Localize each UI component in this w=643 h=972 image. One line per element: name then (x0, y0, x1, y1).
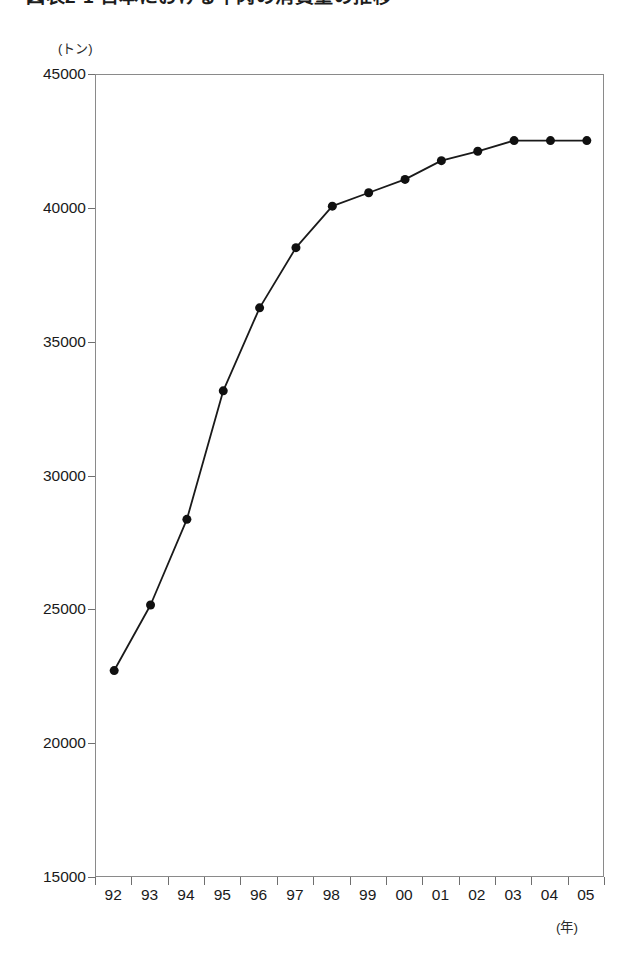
data-point-marker: 94: 28400 (182, 515, 191, 524)
series-plot: 92: 2275093: 2520094: 2840095: 3320096: … (96, 75, 605, 878)
x-axis-tick (568, 877, 569, 885)
y-axis-tick-label: 20000 (4, 734, 86, 752)
data-point-marker: 96: 36300 (255, 303, 264, 312)
data-point-marker: 00: 41100 (401, 175, 410, 184)
data-point-marker: 98: 40100 (328, 202, 337, 211)
y-axis-tick-label: 45000 (4, 65, 86, 83)
x-axis-tick (204, 877, 205, 885)
x-axis-tick (277, 877, 278, 885)
y-axis-unit-label: (トン) (58, 38, 93, 57)
data-point-marker: 99: 40600 (364, 188, 373, 197)
x-axis-tick (495, 877, 496, 885)
data-point-marker: 95: 33200 (219, 386, 228, 395)
x-axis-tick (386, 877, 387, 885)
x-axis-tick (168, 877, 169, 885)
x-axis-tick (422, 877, 423, 885)
data-point-marker: 05: 42550 (582, 136, 591, 145)
data-point-marker: 04: 42550 (546, 136, 555, 145)
y-axis-tick-label: 25000 (4, 600, 86, 618)
data-point-marker: 02: 42150 (473, 147, 482, 156)
x-axis-unit-label: (年) (556, 916, 578, 936)
data-point-marker: 97: 38550 (291, 243, 300, 252)
x-axis-tick (240, 877, 241, 885)
y-axis-tick-label: 40000 (4, 199, 86, 217)
x-axis-tick (313, 877, 314, 885)
y-axis-tick-label: 15000 (4, 868, 86, 886)
series-line (114, 141, 587, 671)
x-axis-tick-label: 05 (564, 886, 608, 904)
data-point-marker: 92: 22750 (110, 666, 119, 675)
y-axis-tick-label: 30000 (4, 467, 86, 485)
plot-area: 92: 2275093: 2520094: 2840095: 3320096: … (95, 74, 604, 877)
x-axis-tick (531, 877, 532, 885)
data-point-marker: 03: 42550 (510, 136, 519, 145)
x-axis-tick (459, 877, 460, 885)
x-axis-tick (131, 877, 132, 885)
y-axis-tick-label: 35000 (4, 333, 86, 351)
data-point-marker: 93: 25200 (146, 600, 155, 609)
x-axis-tick (95, 877, 96, 885)
data-point-marker: 01: 41800 (437, 156, 446, 165)
x-axis-tick (604, 877, 605, 885)
chart-title: 図表2-1 日本における牛肉の消費量の推移 (26, 0, 626, 10)
x-axis-tick (350, 877, 351, 885)
